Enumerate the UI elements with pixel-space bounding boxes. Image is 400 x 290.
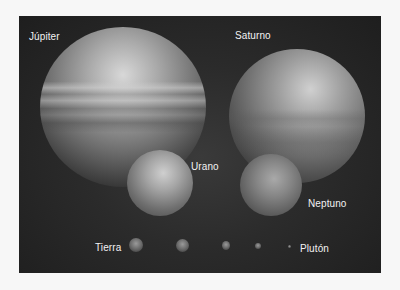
- label-pluto: Plutón: [300, 243, 329, 254]
- label-neptune: Neptuno: [308, 198, 347, 209]
- planet-neptune: [240, 154, 302, 216]
- label-saturn: Saturno: [235, 30, 271, 41]
- planet-mars: [222, 241, 230, 250]
- planet-size-comparison-image: Júpiter Saturno Urano Neptuno Tierra Plu…: [19, 16, 381, 273]
- label-uranus: Urano: [191, 161, 219, 172]
- planet-pluto: [288, 245, 291, 248]
- planet-earth: [129, 238, 143, 252]
- label-earth: Tierra: [95, 242, 121, 253]
- planet-venus: [176, 239, 189, 252]
- label-jupiter: Júpiter: [29, 31, 60, 42]
- planet-mercury: [255, 243, 261, 249]
- planet-uranus: [127, 150, 193, 216]
